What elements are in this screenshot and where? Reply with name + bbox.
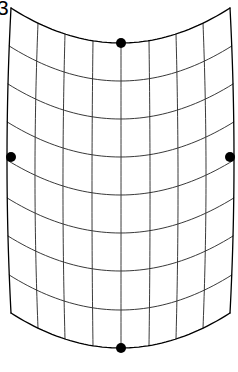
marker-dot-left-edge-midpoint (6, 152, 16, 162)
mesh-grid-curve-horizontal (7, 122, 234, 157)
marker-dot-bottom-edge-midpoint (116, 343, 126, 353)
mesh-boundary-curve (11, 313, 230, 348)
mesh-boundary-curve (11, 8, 230, 43)
mesh-grid-curve-horizontal (9, 46, 232, 81)
mesh-grid-curve-horizontal (8, 84, 233, 119)
mesh-grid-curve-horizontal (7, 160, 234, 195)
mesh-grid-curve-horizontal (8, 236, 233, 271)
marker-points (6, 38, 235, 353)
marker-dot-right-edge-midpoint (225, 152, 235, 162)
curved-mesh-diagram (0, 0, 238, 372)
mesh-horizontal-curves (7, 46, 234, 310)
mesh-grid-curve-horizontal (7, 198, 234, 233)
mesh-grid-curve-horizontal (9, 275, 232, 310)
figure-canvas: 3 (0, 0, 238, 372)
marker-dot-top-edge-midpoint (116, 38, 126, 48)
